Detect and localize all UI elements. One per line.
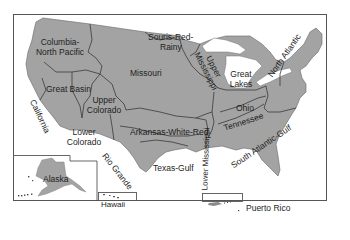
label-ohio: Ohio [236, 104, 254, 113]
hawaii-islands [103, 194, 119, 198]
label-texas-gulf: Texas-Gulf [153, 164, 194, 173]
label-lower-colorado: Lower Colorado [64, 128, 104, 146]
label-line: Lower [64, 128, 104, 137]
label-line: Great [226, 70, 256, 79]
label-line: Souris-Red- [148, 33, 193, 42]
label-great-basin: Great Basin [46, 85, 91, 94]
label-missouri: Missouri [130, 69, 162, 78]
aleutian-islands [18, 176, 33, 196]
label-line: Lakes [226, 80, 256, 89]
label-hawaii: Hawaii [101, 201, 125, 209]
label-line: North Pacific [32, 48, 88, 57]
label-line: Colorado [64, 138, 104, 147]
label-puerto-rico: Puerto Rico [246, 204, 290, 213]
label-line: Columbia- [32, 38, 88, 47]
puerto-rico-shape [208, 202, 222, 206]
label-souris-red-rainy: Souris-Red- Rainy [148, 33, 193, 51]
label-line: Rainy [160, 43, 193, 52]
label-arkansas-white-red: Arkansas-White-Red [130, 128, 208, 137]
label-columbia-north-pacific: Columbia- North Pacific [32, 38, 88, 56]
label-line: Upper [84, 96, 124, 105]
label-alaska: Alaska [43, 175, 69, 184]
label-great-lakes: Great Lakes [226, 70, 256, 88]
label-upper-colorado: Upper Colorado [84, 96, 124, 114]
label-line: Colorado [84, 106, 124, 115]
virgin-islands [224, 202, 239, 212]
